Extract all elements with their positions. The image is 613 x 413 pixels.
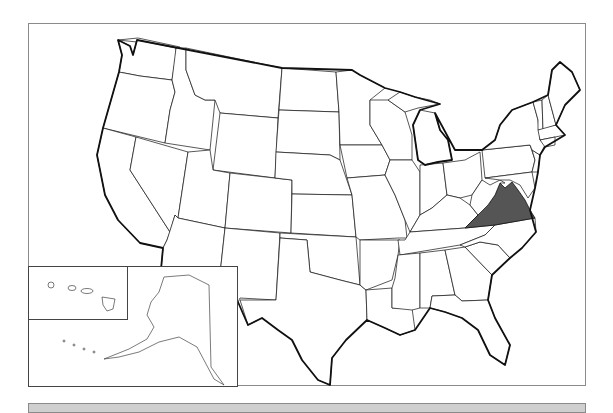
hawaii-island-big-island[interactable] bbox=[102, 297, 115, 311]
aleutian-island bbox=[83, 348, 85, 350]
hawaii-island-kauai[interactable] bbox=[48, 282, 54, 288]
state-wyoming[interactable] bbox=[213, 113, 278, 178]
state-kansas[interactable] bbox=[291, 194, 356, 237]
state-florida[interactable] bbox=[430, 295, 510, 365]
state-colorado[interactable] bbox=[225, 173, 292, 233]
aleutian-island bbox=[63, 340, 65, 342]
hawaii-island-maui[interactable] bbox=[81, 289, 93, 294]
hawaii-inset bbox=[28, 266, 128, 320]
hawaii-map bbox=[29, 267, 129, 321]
hawaii-island-oahu[interactable] bbox=[68, 286, 76, 291]
state-north-dakota[interactable] bbox=[279, 68, 339, 112]
state-iowa[interactable] bbox=[340, 145, 390, 178]
aleutian-island bbox=[93, 351, 95, 353]
footer-bar bbox=[28, 403, 586, 413]
aleutian-island bbox=[73, 344, 75, 346]
